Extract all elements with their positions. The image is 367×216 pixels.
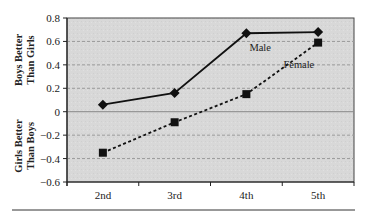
y-tick-label: −0.6 bbox=[40, 176, 60, 188]
line-chart: 0.80.60.40.20−0.2−0.4−0.6 2nd3rd4th5th M… bbox=[0, 0, 367, 216]
square-marker bbox=[242, 90, 250, 98]
svg-text:Girls Better: Girls Better bbox=[13, 119, 24, 173]
svg-text:Boys Better: Boys Better bbox=[13, 34, 24, 87]
y-tick-label: 0.4 bbox=[46, 59, 60, 71]
x-tick-label: 2nd bbox=[95, 189, 112, 201]
y-tick-label: −0.4 bbox=[40, 153, 60, 165]
male-label: Male bbox=[249, 42, 271, 53]
side-labels: Boys BetterThan GirlsGirls BetterThan Bo… bbox=[13, 34, 36, 173]
svg-text:Than Girls: Than Girls bbox=[25, 35, 36, 84]
plot-area bbox=[67, 18, 354, 182]
x-tick-label: 4th bbox=[239, 189, 254, 201]
square-marker bbox=[314, 39, 322, 47]
y-tick-label: −0.2 bbox=[40, 129, 60, 141]
y-tick-label: 0.6 bbox=[46, 35, 60, 47]
square-marker bbox=[99, 149, 107, 157]
female-label: Female bbox=[283, 59, 314, 70]
girls-better-label: Girls BetterThan Boys bbox=[13, 119, 36, 173]
y-tick-label: 0.8 bbox=[46, 12, 60, 24]
x-axis: 2nd3rd4th5th bbox=[67, 182, 354, 201]
y-tick-label: 0 bbox=[55, 106, 61, 118]
boys-better-label: Boys BetterThan Girls bbox=[13, 34, 36, 87]
x-tick-label: 3rd bbox=[167, 189, 182, 201]
x-tick-label: 5th bbox=[311, 189, 326, 201]
svg-text:Than Boys: Than Boys bbox=[25, 122, 36, 170]
y-axis: 0.80.60.40.20−0.2−0.4−0.6 bbox=[40, 12, 67, 188]
square-marker bbox=[171, 118, 179, 126]
y-tick-label: 0.2 bbox=[46, 82, 60, 94]
